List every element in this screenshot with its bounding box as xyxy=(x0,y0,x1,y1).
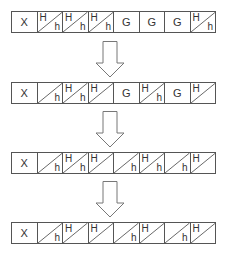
cell-split: h xyxy=(114,223,140,243)
upper-label: H xyxy=(142,223,149,234)
lower-label: h xyxy=(80,21,86,32)
sequence-row-1: X Hh Hh Hh G G G Hh xyxy=(11,11,216,33)
sequence-row-2: X h Hh H G Hh G H xyxy=(11,82,216,104)
upper-label: H xyxy=(65,83,72,94)
upper-label: H xyxy=(193,153,200,164)
cell-split: Hh xyxy=(63,83,89,103)
cell-full: G xyxy=(114,12,140,32)
cell-split: Hh xyxy=(89,12,115,32)
cell-split: Hh xyxy=(63,12,89,32)
upper-label: H xyxy=(40,12,47,23)
cell-full: X xyxy=(12,83,38,103)
cell-label: G xyxy=(114,12,139,32)
cell-split: Hh xyxy=(191,12,216,32)
lower-label: h xyxy=(105,21,111,32)
cell-split: h xyxy=(38,83,64,103)
cell-label: G xyxy=(165,83,190,103)
upper-label: H xyxy=(142,83,149,94)
cell-full: X xyxy=(12,153,38,173)
cell-split: h xyxy=(38,223,64,243)
cell-split: H xyxy=(89,83,115,103)
cell-split: Hh xyxy=(63,153,89,173)
upper-label: H xyxy=(65,12,72,23)
lower-label: h xyxy=(54,162,60,173)
cell-split: H xyxy=(89,153,115,173)
cell-split: H xyxy=(89,223,115,243)
cell-split: h xyxy=(38,153,64,173)
upper-label: H xyxy=(91,153,98,164)
cell-split: H xyxy=(63,223,89,243)
cell-split: H xyxy=(191,153,216,173)
cell-full: X xyxy=(12,12,38,32)
upper-label: H xyxy=(193,223,200,234)
cell-label: X xyxy=(12,12,37,32)
cell-split: h xyxy=(114,153,140,173)
cell-label: X xyxy=(12,223,37,243)
cell-full: G xyxy=(140,12,166,32)
cell-full: G xyxy=(165,12,191,32)
cell-full: G xyxy=(165,83,191,103)
cell-split: H xyxy=(191,83,216,103)
lower-label: h xyxy=(131,232,137,243)
lower-label: h xyxy=(54,232,60,243)
sequence-row-3: X h Hh H h Hh h H xyxy=(11,152,216,174)
lower-label: h xyxy=(131,162,137,173)
cell-label: X xyxy=(12,83,37,103)
upper-label: H xyxy=(65,153,72,164)
upper-label: H xyxy=(193,83,200,94)
cell-label: G xyxy=(114,83,139,103)
down-arrow-icon xyxy=(95,111,125,149)
sequence-row-4: X h H H h H h H xyxy=(11,222,216,244)
upper-label: H xyxy=(193,12,200,23)
upper-label: H xyxy=(91,83,98,94)
cell-split: Hh xyxy=(140,153,166,173)
lower-label: h xyxy=(80,92,86,103)
cell-label: X xyxy=(12,153,37,173)
lower-label: h xyxy=(207,21,213,32)
upper-label: H xyxy=(91,223,98,234)
cell-split: H xyxy=(191,223,216,243)
lower-label: h xyxy=(80,162,86,173)
cell-split: h xyxy=(165,223,191,243)
lower-label: h xyxy=(182,162,188,173)
cell-label: G xyxy=(140,12,165,32)
lower-label: h xyxy=(182,232,188,243)
cell-label: G xyxy=(165,12,190,32)
lower-label: h xyxy=(54,21,60,32)
cell-split: Hh xyxy=(38,12,64,32)
lower-label: h xyxy=(156,162,162,173)
cell-split: h xyxy=(165,153,191,173)
upper-label: H xyxy=(91,12,98,23)
lower-label: h xyxy=(54,92,60,103)
cell-full: X xyxy=(12,223,38,243)
upper-label: H xyxy=(65,223,72,234)
lower-label: h xyxy=(156,92,162,103)
down-arrow-icon xyxy=(95,41,125,79)
cell-split: H xyxy=(140,223,166,243)
cell-split: Hh xyxy=(140,83,166,103)
cell-full: G xyxy=(114,83,140,103)
down-arrow-icon xyxy=(95,181,125,219)
upper-label: H xyxy=(142,153,149,164)
